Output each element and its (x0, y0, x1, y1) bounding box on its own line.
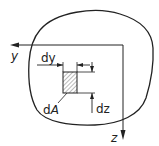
dA-label: dA (43, 103, 59, 117)
y-axis-arrow-icon (10, 43, 19, 48)
y-axis-label: y (10, 49, 19, 63)
area-element-diagram: y z dy dz dA (0, 0, 159, 146)
y-axis: y (10, 43, 123, 64)
area-element-dA (63, 72, 77, 93)
dA-annotation: dA (43, 93, 67, 117)
dy-dimension: dy (37, 51, 90, 72)
z-axis-label: z (110, 131, 118, 145)
dy-label: dy (41, 51, 56, 65)
z-axis: z (110, 45, 126, 145)
dz-dimension: dz (77, 62, 110, 116)
z-axis-arrow-icon (121, 130, 126, 140)
dz-label: dz (96, 102, 110, 116)
